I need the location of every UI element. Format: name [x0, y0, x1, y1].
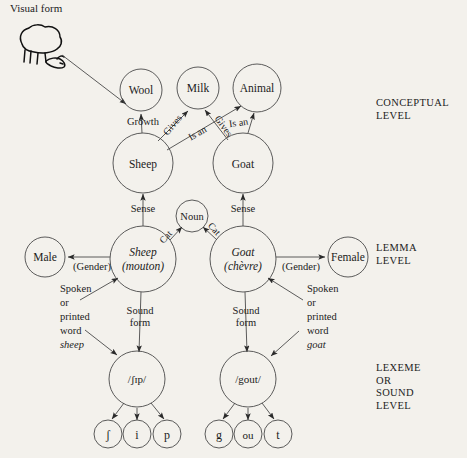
node-sheep-lemma-label: Sheep [129, 246, 157, 259]
diagram-graphics: Wool Milk Animal Sheep Goat Growth Gives… [0, 0, 467, 458]
node-goat-lemma [210, 226, 276, 292]
node-male-label: Male [33, 251, 57, 263]
node-goat-lemma-sublabel: (chèvre) [224, 260, 262, 273]
svg-text:sheep: sheep [60, 339, 84, 350]
node-wool-label: Wool [129, 84, 154, 96]
edge-label-is-an-right: Is an [228, 116, 249, 130]
svg-text:goat: goat [307, 339, 327, 350]
node-phoneme-g-label: g [216, 428, 222, 442]
diagram-canvas: Visual form CONCEPTUAL LEVEL LEMMA LEVEL… [0, 0, 467, 458]
node-goat-lemma-label: Goat [232, 246, 256, 258]
edge-label-sense-right: Sense [231, 203, 256, 214]
edge-label-gender-right: (Gender) [282, 261, 320, 273]
edge-label-gives-left: Gives [161, 112, 184, 137]
svg-text:printed: printed [307, 311, 337, 322]
node-noun-label: Noun [180, 211, 204, 222]
annotation-right-word: Spoken or printed word goat [307, 283, 339, 350]
node-phoneme-i-label: i [135, 428, 139, 442]
edge-goat-animal [248, 113, 254, 133]
svg-text:or: or [307, 297, 316, 308]
node-goat-concept-label: Goat [232, 158, 255, 170]
node-phoneme-sh-label: ʃ [105, 428, 111, 442]
edge-word-to-goat-lemma [268, 278, 303, 300]
svg-text:or: or [60, 297, 69, 308]
svg-text:word: word [60, 325, 82, 336]
edge-label-sound-form-left-2: form [130, 317, 150, 328]
edge-label-gender-left: (Gender) [73, 261, 111, 273]
edge-label-is-an-left: Is an [186, 123, 208, 142]
svg-text:Spoken: Spoken [60, 283, 92, 294]
svg-text:word: word [307, 325, 329, 336]
edge-word-to-sheep-lexeme [85, 330, 117, 355]
edge-word-to-goat-lexeme [271, 331, 299, 356]
edge-label-sound-form-left: Sound [127, 305, 155, 316]
edge-phoneme-t [262, 403, 274, 419]
node-phoneme-p-label: p [164, 428, 170, 442]
annotation-left-word: Spoken or printed word sheep [60, 283, 92, 350]
edge-phoneme-sh [112, 403, 124, 419]
edge-label-sound-form-right-2: form [236, 317, 256, 328]
edge-label-sound-form-right: Sound [233, 305, 261, 316]
svg-text:Spoken: Spoken [307, 283, 339, 294]
node-sheep-lemma-sublabel: (mouton) [122, 260, 164, 273]
edge-visual-to-sheep [62, 55, 126, 104]
node-animal-label: Animal [240, 82, 275, 94]
node-milk-label: Milk [187, 82, 210, 94]
svg-text:printed: printed [60, 311, 90, 322]
node-female-label: Female [331, 251, 365, 263]
sheep-illustration [20, 25, 64, 68]
edge-phoneme-g [223, 403, 235, 419]
edge-cat-left [170, 227, 182, 240]
node-phoneme-t-label: t [276, 428, 280, 442]
node-sheep-concept-label: Sheep [129, 158, 157, 171]
edge-phoneme-p [151, 403, 164, 419]
edge-label-growth: Growth [127, 116, 160, 127]
node-phoneme-ou-label: ou [243, 429, 255, 441]
node-sheep-lexeme-label: /ʃɪp/ [128, 373, 147, 385]
node-goat-lexeme-label: /gout/ [235, 373, 262, 385]
edge-label-sense-left: Sense [131, 203, 156, 214]
